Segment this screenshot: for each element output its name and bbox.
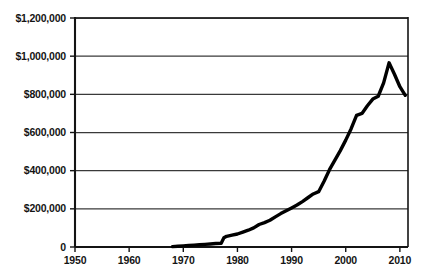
x-axis-labels: 1950196019701980199020002010 xyxy=(64,254,412,266)
line-chart: 0$200,000$400,000$600,000$800,000$1,000,… xyxy=(0,0,423,279)
y-axis-tick-label: $1,200,000 xyxy=(15,12,66,24)
x-axis-tick-label: 1990 xyxy=(280,254,303,266)
y-axis-tick-label: $400,000 xyxy=(24,164,67,176)
y-axis-tick-label: $800,000 xyxy=(24,88,67,100)
y-axis-tick-label: $600,000 xyxy=(24,126,67,138)
x-axis-tick-label: 2000 xyxy=(334,254,357,266)
data-series-line xyxy=(172,63,405,247)
y-axis-tick-label: $200,000 xyxy=(24,202,67,214)
x-axis-tick-label: 2010 xyxy=(389,254,412,266)
y-axis-tick-label: $1,000,000 xyxy=(15,50,66,62)
x-axis-tick-label: 1960 xyxy=(118,254,141,266)
chart-container: 0$200,000$400,000$600,000$800,000$1,000,… xyxy=(0,0,423,279)
x-axis-tick-label: 1950 xyxy=(64,254,87,266)
x-axis-tick-label: 1970 xyxy=(172,254,195,266)
y-axis-tick-label: 0 xyxy=(60,241,66,253)
y-axis-labels: 0$200,000$400,000$600,000$800,000$1,000,… xyxy=(15,12,66,253)
x-axis-tick-label: 1980 xyxy=(226,254,249,266)
